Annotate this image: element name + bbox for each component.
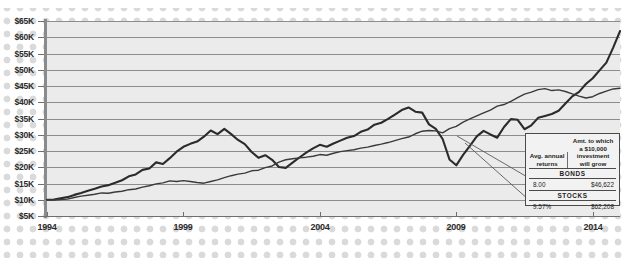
- legend-bonds-title: BONDS: [526, 169, 619, 178]
- legend-row-stocks: 9.57% $62,208: [526, 201, 619, 212]
- callout-leader-lines: [0, 0, 625, 258]
- legend-header-growth: Amt. to which a $10,000 investment will …: [568, 137, 616, 168]
- legend-header: Avg. annual returns Amt. to which a $10,…: [526, 134, 619, 168]
- legend-bonds-return: 8.00: [529, 181, 568, 188]
- legend-header-growth-line1: Amt. to which: [570, 137, 616, 144]
- legend-header-growth-line3: investment: [570, 152, 616, 159]
- legend-header-returns-line1: Avg. annual: [529, 152, 565, 159]
- legend-header-growth-line4: will grow: [570, 160, 616, 167]
- legend-row-bonds: 8.00 $46,622: [526, 179, 619, 190]
- legend-callout-box: Avg. annual returns Amt. to which a $10,…: [525, 133, 620, 206]
- chart-root: $5K$10K$15K$20K$25K$30K$35K$40K$45K$50K$…: [0, 0, 625, 258]
- legend-stocks-title: STOCKS: [526, 191, 619, 200]
- legend-header-returns: Avg. annual returns: [529, 152, 568, 168]
- legend-bonds-growth: $46,622: [568, 181, 616, 188]
- legend-header-returns-line2: returns: [529, 160, 565, 167]
- legend-stocks-growth: $62,208: [568, 203, 616, 210]
- legend-header-growth-line2: a $10,000: [570, 145, 616, 152]
- legend-stocks-return: 9.57%: [529, 203, 568, 210]
